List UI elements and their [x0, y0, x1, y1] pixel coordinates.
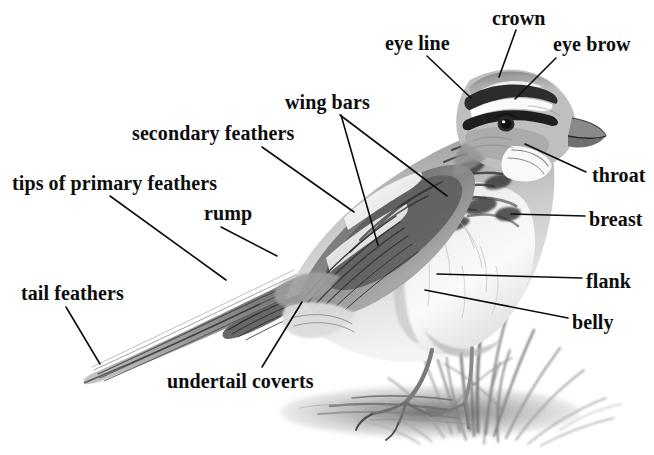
label-tips-of-primary-feathers: tips of primary feathers	[12, 173, 217, 193]
head-shape	[453, 70, 606, 182]
bill	[568, 118, 606, 148]
label-eye-line: eye line	[385, 33, 450, 53]
leader-tail-feathers	[66, 307, 100, 364]
bird-anatomy-diagram: eye linecrowneye browwing barssecondary …	[0, 0, 654, 455]
label-undertail-coverts: undertail coverts	[167, 371, 314, 391]
label-wing-bars: wing bars	[285, 92, 370, 112]
label-rump: rump	[204, 203, 252, 223]
label-breast: breast	[589, 209, 643, 229]
sparrow-illustration	[0, 0, 654, 455]
label-belly: belly	[572, 312, 614, 332]
label-throat: throat	[592, 165, 646, 185]
label-crown: crown	[492, 8, 545, 28]
leader-rump	[221, 227, 277, 256]
label-flank: flank	[586, 271, 631, 291]
label-secondary-feathers: secondary feathers	[132, 123, 294, 143]
label-eye-brow: eye brow	[553, 34, 631, 54]
leader-secondary-feathers	[262, 147, 354, 212]
label-tail-feathers: tail feathers	[21, 283, 124, 303]
leader-eye-line	[427, 56, 471, 98]
